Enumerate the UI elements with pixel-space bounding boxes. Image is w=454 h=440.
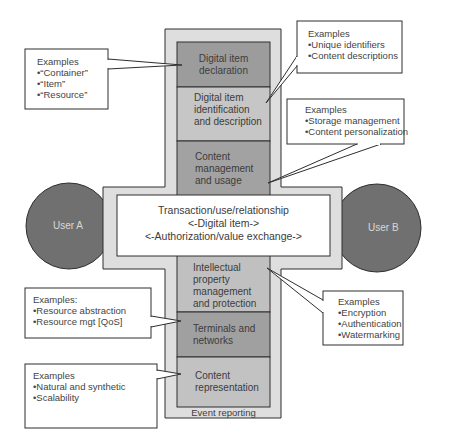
block-label-line: property <box>193 274 270 286</box>
callout-item: •Watermarking <box>338 329 402 340</box>
callout-item: •Content personalization <box>305 126 408 137</box>
block-label-line: and description <box>194 116 270 128</box>
block-label-representation: Content representation <box>195 370 270 394</box>
transaction-text: Transaction/use/relationship <-Digital i… <box>118 204 329 243</box>
block-label-line: identification <box>194 104 270 116</box>
callout-item: •Resource abstraction <box>33 305 126 316</box>
callout-item: •Resource mgt [QoS] <box>33 316 126 327</box>
block-label-line: Terminals and <box>193 323 270 335</box>
transaction-line-1: Transaction/use/relationship <box>118 204 329 217</box>
block-label-line: management <box>193 286 270 298</box>
callout-item: •Scalability <box>33 392 126 403</box>
callout-item: •Natural and synthetic <box>33 381 126 392</box>
block-label-line: Content <box>195 151 270 163</box>
callout-item: •Unique identifiers <box>308 39 398 50</box>
block-label-line: representation <box>195 382 270 394</box>
transaction-line-2: <-Digital item-> <box>118 217 329 230</box>
block-label-ipmp: Intellectual property management and pro… <box>193 262 270 310</box>
callout-item: •“Container” <box>37 67 88 78</box>
callout-1: Examples •“Container” •“Item” •“Resource… <box>37 56 88 100</box>
block-label-line: Intellectual <box>193 262 270 274</box>
block-label-line: Digital item <box>177 53 270 65</box>
user-b-label: User B <box>368 222 399 233</box>
callout-6: Examples •Natural and synthetic •Scalabi… <box>33 370 126 403</box>
block-label-line: Digital item <box>194 92 270 104</box>
block-label-line: networks <box>193 335 270 347</box>
block-label-content-management: Content management and usage <box>195 151 270 187</box>
callout-title: Examples <box>308 28 398 39</box>
block-label-line: Content <box>195 370 270 382</box>
transaction-line-3: <-Authorization/value exchange-> <box>118 230 329 243</box>
callout-item: •Authentication <box>338 318 402 329</box>
block-label-identification: Digital item identification and descript… <box>194 92 270 128</box>
callout-item: •“Resource” <box>37 89 88 100</box>
callout-4: Examples •Encryption •Authentication •Wa… <box>338 296 402 340</box>
callout-title: Examples: <box>33 294 126 305</box>
block-label-line: declaration <box>177 65 270 77</box>
callout-title: Examples <box>33 370 126 381</box>
callout-5: Examples: •Resource abstraction •Resourc… <box>33 294 126 327</box>
callout-title: Examples <box>37 56 88 67</box>
block-label-terminals: Terminals and networks <box>193 323 270 347</box>
block-label-line: and protection <box>193 298 270 310</box>
block-label-line: and usage <box>195 175 270 187</box>
callout-item: •Content descriptions <box>308 50 398 61</box>
callout-item: •“Item” <box>37 78 88 89</box>
callout-item: •Storage management <box>305 115 408 126</box>
user-a-label: User A <box>53 220 83 231</box>
callout-title: Examples <box>338 296 402 307</box>
callout-title: Examples <box>305 104 408 115</box>
block-label-declaration: Digital item declaration <box>177 53 270 77</box>
callout-item: •Encryption <box>338 307 402 318</box>
event-reporting-label: Event reporting <box>177 407 270 419</box>
block-label-line: management <box>195 163 270 175</box>
callout-3: Examples •Storage management •Content pe… <box>305 104 408 137</box>
callout-2: Examples •Unique identifiers •Content de… <box>308 28 398 61</box>
